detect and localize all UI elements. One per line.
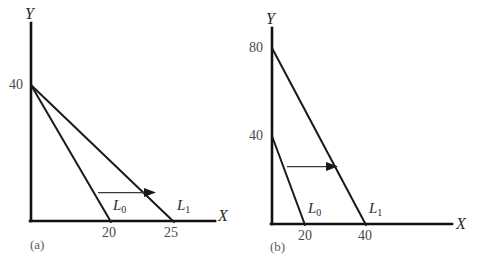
- panel-a-curve-label-L0-sub: 0: [121, 204, 126, 215]
- panel-a-x-tick-20: 20: [102, 226, 116, 240]
- panel-b-y-axis-label: Y: [266, 11, 275, 27]
- panel-a-curve-label-L1-sub: 1: [185, 204, 190, 215]
- panel-a-curve-label-L1: L1: [177, 198, 190, 213]
- panel-a-caption: (a): [30, 238, 44, 251]
- panel-a-budget-line-L1: [31, 85, 174, 222]
- figure-root: Y X 40 20 25 L0 L1 (a) Y X 80 40 20 40 L…: [0, 0, 478, 261]
- figure-canvas: [0, 0, 478, 261]
- panel-b-curve-label-L1: L1: [369, 201, 382, 216]
- panel-a-graphics: [30, 23, 215, 222]
- panel-b-x-axis-label: X: [456, 216, 466, 232]
- panel-a-budget-line-L0: [31, 85, 111, 222]
- panel-b-shift-arrow: [287, 162, 338, 171]
- panel-a-curve-label-L0: L0: [113, 198, 126, 213]
- panel-b-graphics: [271, 28, 452, 225]
- panel-b-curve-label-L0-sub: 0: [316, 207, 321, 218]
- panel-a-x-axis-label: X: [218, 208, 228, 224]
- panel-a-x-tick-25: 25: [164, 226, 178, 240]
- panel-b-y-tick-40: 40: [249, 129, 263, 143]
- panel-b-x-tick-20: 20: [298, 229, 312, 243]
- panel-b-curve-label-L1-sub: 1: [377, 207, 382, 218]
- panel-b-caption: (b): [270, 240, 285, 253]
- panel-b-budget-line-L0: [272, 136, 305, 225]
- panel-a-y-tick-40: 40: [9, 78, 23, 92]
- panel-a-y-axis-label: Y: [25, 6, 34, 22]
- panel-a-shift-arrow: [98, 188, 156, 197]
- panel-b-x-tick-40: 40: [358, 229, 372, 243]
- panel-b-budget-line-L1: [272, 48, 366, 225]
- panel-b-curve-label-L0: L0: [308, 201, 321, 216]
- panel-b-y-tick-80: 80: [249, 41, 263, 55]
